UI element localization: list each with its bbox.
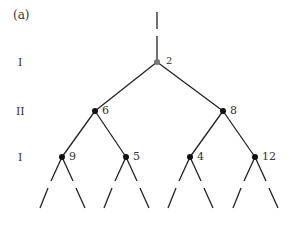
edge-r-rl — [190, 111, 223, 157]
node-value-rr: 12 — [262, 151, 276, 162]
node-r — [220, 108, 226, 114]
node-value-rl: 4 — [197, 151, 204, 162]
edge-r-rr — [223, 111, 255, 157]
node-ll — [59, 154, 65, 160]
edge-l-ll — [62, 111, 95, 157]
node-rl — [187, 154, 193, 160]
node-value-root: 2 — [166, 56, 172, 66]
node-value-r: 8 — [230, 105, 237, 116]
node-rr — [252, 154, 258, 160]
node-value-ll: 9 — [69, 151, 76, 162]
node-value-l: 6 — [102, 105, 109, 116]
edge-root-r — [157, 62, 223, 111]
node-l — [92, 108, 98, 114]
game-tree — [0, 0, 299, 225]
node-root — [154, 59, 160, 65]
edge-l-lr — [95, 111, 126, 157]
node-lr — [123, 154, 129, 160]
node-value-lr: 5 — [133, 151, 140, 162]
